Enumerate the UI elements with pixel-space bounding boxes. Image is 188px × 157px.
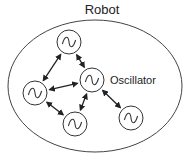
robot-oscillator-diagram: Robot Oscillator bbox=[0, 0, 188, 157]
bidirectional-arrow-top-center bbox=[77, 55, 84, 67]
bidirectional-arrow-top-left bbox=[43, 54, 60, 80]
bidirectional-arrow-center-bottom bbox=[80, 94, 86, 110]
bidirectional-arrow-left-center bbox=[50, 83, 78, 89]
diagram-title: Robot bbox=[85, 2, 120, 17]
oscillator-label: Oscillator bbox=[110, 74, 156, 86]
oscillator-node-right bbox=[119, 106, 143, 130]
bidirectional-arrow-left-bottom bbox=[47, 102, 63, 115]
bidirectional-arrow-center-right bbox=[103, 90, 121, 107]
oscillator-node-center bbox=[80, 68, 104, 92]
oscillator-node-bottom bbox=[63, 112, 87, 136]
oscillator-node-top bbox=[57, 30, 81, 54]
oscillator-node-left bbox=[23, 81, 47, 105]
